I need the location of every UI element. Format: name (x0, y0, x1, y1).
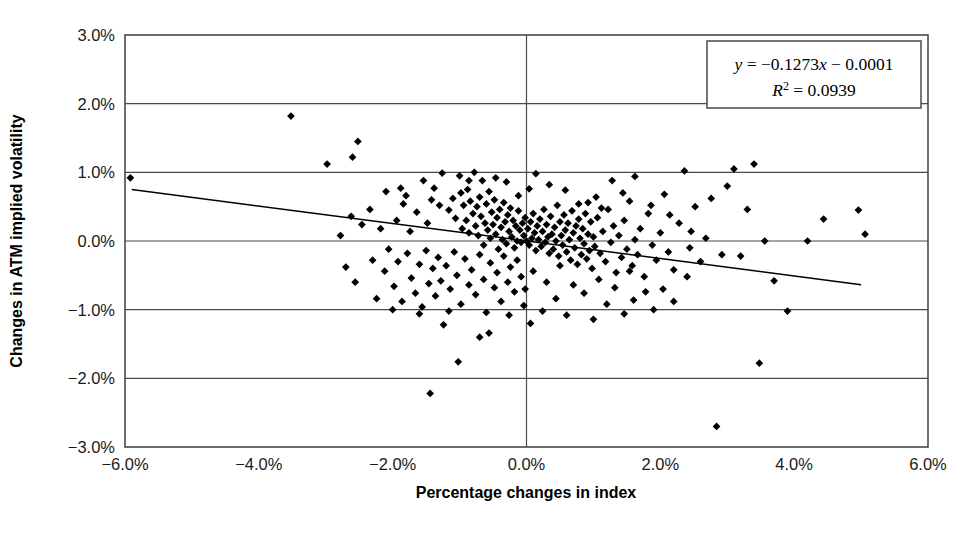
y-tick-label: −1.0% (68, 301, 116, 319)
equation-line-1: y = −0.1273x − 0.0001 (733, 54, 894, 74)
x-tick-label: −6.0% (101, 455, 149, 473)
scatter-chart-figure: −6.0%−4.0%−2.0%0.0%2.0%4.0%6.0% −3.0%−2.… (0, 0, 968, 535)
x-tick-label: 0.0% (508, 455, 546, 473)
y-tick-label: 1.0% (77, 163, 115, 181)
x-tick-label: −2.0% (369, 455, 417, 473)
y-tick-label: −2.0% (68, 369, 116, 387)
y-axis-tick-labels: −3.0%−2.0%−1.0%0.0%1.0%2.0%3.0% (68, 26, 116, 456)
y-tick-label: 0.0% (77, 232, 115, 250)
x-axis-title: Percentage changes in index (416, 484, 637, 501)
chart-canvas: −6.0%−4.0%−2.0%0.0%2.0%4.0%6.0% −3.0%−2.… (0, 0, 968, 535)
y-axis-title: Changes in ATM implied volatility (8, 114, 25, 367)
x-tick-label: 4.0% (775, 455, 813, 473)
x-tick-label: 6.0% (909, 455, 947, 473)
regression-equation-box: y = −0.1273x − 0.0001 R2 = 0.0939 (707, 41, 921, 108)
y-tick-label: −3.0% (68, 438, 116, 456)
x-tick-label: 2.0% (642, 455, 680, 473)
x-axis-tick-labels: −6.0%−4.0%−2.0%0.0%2.0%4.0%6.0% (101, 455, 947, 473)
y-tick-label: 2.0% (77, 95, 115, 113)
y-tick-label: 3.0% (77, 26, 115, 44)
x-tick-label: −4.0% (235, 455, 283, 473)
